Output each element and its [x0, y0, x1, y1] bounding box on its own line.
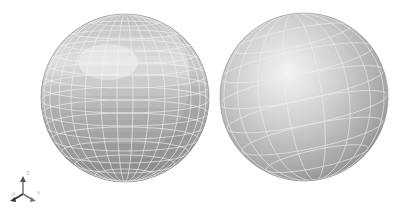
faceted-sphere[interactable]	[0, 0, 215, 190]
y-axis-label: Y	[37, 190, 40, 196]
smooth-sphere[interactable]	[207, 3, 400, 192]
z-axis-label: Z	[26, 170, 29, 176]
axis-triad	[10, 176, 36, 202]
x-axis-label: X	[12, 191, 15, 197]
3d-viewport[interactable]: Z X Y	[0, 0, 400, 207]
